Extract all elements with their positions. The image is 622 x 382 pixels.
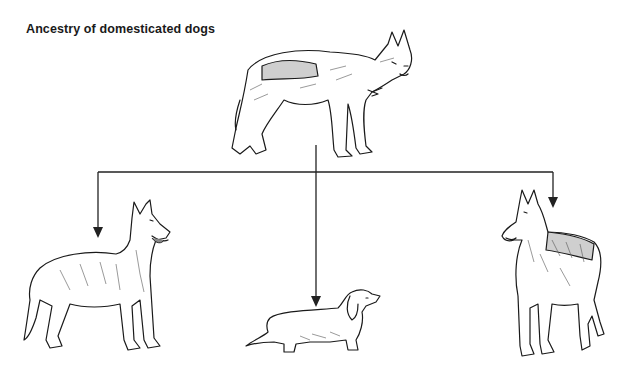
shepherd-dog-illustration xyxy=(502,190,604,356)
arrow-to-shepherd-icon xyxy=(548,197,558,208)
ancestry-diagram xyxy=(0,0,622,382)
collie-illustration xyxy=(24,200,170,350)
wolf-illustration xyxy=(232,30,412,157)
arrow-to-collie-icon xyxy=(93,227,103,238)
arrow-to-dachshund-icon xyxy=(311,296,321,307)
